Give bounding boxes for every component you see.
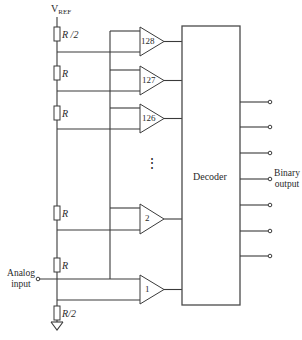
resistor-r4 (54, 258, 60, 272)
vref-subscript: REF (58, 8, 71, 16)
resistor-label: R (62, 68, 68, 79)
resistor-label: R (62, 108, 68, 119)
binary-output-line1: Binary (272, 168, 302, 179)
resistor-r2-top (54, 27, 60, 41)
comparator-label: 128 (141, 36, 155, 46)
decoder-block (182, 26, 240, 305)
comparator-2 (140, 204, 164, 234)
binary-output-label: Binary output (272, 168, 302, 190)
decoder-label: Decoder (193, 171, 227, 182)
binary-output-line2: output (272, 179, 302, 190)
binary-outputs (240, 100, 272, 258)
comparator-1 (140, 275, 164, 304)
comparator-label: 1 (145, 284, 150, 294)
analog-input-line2: input (6, 279, 36, 290)
analog-input-label: Analog input (6, 268, 36, 290)
resistor-r2 (54, 106, 60, 120)
comparator-label: 2 (145, 213, 150, 223)
comparator-label: 126 (142, 113, 156, 123)
resistor-r2-bottom (54, 306, 60, 320)
vref-label: VREF (51, 3, 71, 18)
resistor-r1 (54, 66, 60, 80)
resistor-r3 (54, 206, 60, 220)
comparator-label: 127 (142, 75, 156, 85)
ground-icon (51, 322, 63, 330)
analog-input-terminal (36, 277, 40, 281)
ellipsis-dots: ⋮ (145, 158, 159, 169)
resistor-label: R /2 (62, 29, 78, 40)
analog-input-line1: Analog (6, 268, 36, 279)
resistor-label: R (62, 260, 68, 271)
resistor-label: R (62, 208, 68, 219)
resistor-label: R/2 (62, 308, 76, 319)
